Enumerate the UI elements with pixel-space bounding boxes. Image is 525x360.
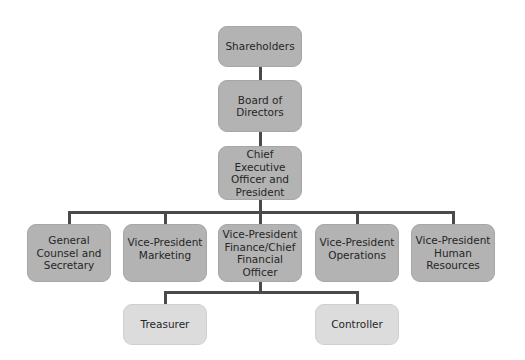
node-shareholders: Shareholders [218, 26, 302, 67]
node-label: Treasurer [141, 318, 190, 331]
node-controller: Controller [315, 304, 399, 345]
connector-shareholders-board [259, 67, 262, 80]
node-ceo: Chief Executive Officer and President [218, 146, 302, 200]
node-label: Controller [331, 318, 383, 331]
node-board-of-directors: Board of Directors [218, 80, 302, 132]
connector-vp-operations [356, 211, 359, 224]
node-label: Board of Directors [236, 94, 284, 119]
node-vp-operations: Vice-President Operations [315, 224, 399, 282]
connector-treasurer [164, 291, 167, 304]
node-treasurer: Treasurer [123, 304, 207, 345]
node-label: Vice-President Human Resources [416, 234, 491, 272]
node-label: Chief Executive Officer and President [222, 148, 298, 198]
connector-vp-marketing [164, 211, 167, 224]
connector-controller [356, 291, 359, 304]
connector-general-counsel [68, 211, 71, 224]
node-vp-marketing: Vice-President Marketing [123, 224, 207, 282]
node-general-counsel: General Counsel and Secretary [27, 224, 111, 282]
node-label: Vice-President Marketing [128, 236, 203, 261]
node-label: Shareholders [225, 40, 294, 53]
connector-level4-horizontal [164, 291, 359, 294]
node-label: Vice-President Operations [320, 236, 395, 261]
node-label: Vice-President Finance/Chief Financial O… [222, 228, 298, 278]
node-vp-finance-cfo: Vice-President Finance/Chief Financial O… [218, 224, 302, 282]
node-label: General Counsel and Secretary [36, 234, 101, 272]
node-vp-human-resources: Vice-President Human Resources [411, 224, 495, 282]
connector-board-ceo [259, 132, 262, 146]
connector-vp-hr [452, 211, 455, 224]
connector-level3-horizontal [68, 211, 454, 214]
